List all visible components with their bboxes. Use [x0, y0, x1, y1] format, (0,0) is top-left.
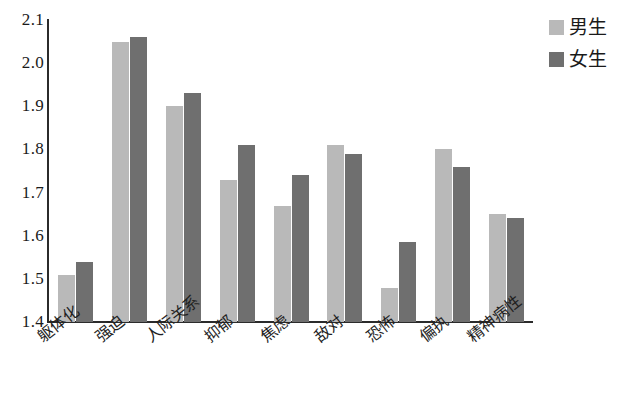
- bar-chart: 2.12.01.91.81.71.61.51.4 躯体化强迫人际关系抑郁焦虑敌对…: [0, 0, 638, 408]
- legend-swatch-icon: [549, 52, 564, 67]
- bar-female: [184, 93, 201, 322]
- bar-female: [345, 154, 362, 322]
- bar-female: [130, 37, 147, 322]
- bar-male: [112, 42, 129, 322]
- bar-female: [453, 167, 470, 322]
- bar-female: [399, 242, 416, 322]
- chart-legend: 男生女生: [549, 14, 635, 78]
- bar-male: [220, 180, 237, 322]
- bar-group: [220, 20, 255, 322]
- x-axis-category-labels: 躯体化强迫人际关系抑郁焦虑敌对恐怖偏执精神病性: [0, 322, 638, 408]
- bar-male: [435, 149, 452, 322]
- y-axis-tick-label: 1.7: [4, 184, 44, 201]
- legend-label: 男生: [569, 18, 607, 37]
- y-axis-tick-label: 1.8: [4, 140, 44, 157]
- bar-group: [166, 20, 201, 322]
- bar-group: [58, 20, 93, 322]
- bar-male: [166, 106, 183, 322]
- y-axis-tick-label: 1.5: [4, 270, 44, 287]
- legend-item-male: 男生: [549, 14, 635, 40]
- bar-group: [112, 20, 147, 322]
- y-axis-tick-label: 2.1: [4, 11, 44, 28]
- bar-group: [381, 20, 416, 322]
- bar-male: [274, 206, 291, 322]
- plot-area: [48, 20, 532, 322]
- bar-female: [238, 145, 255, 322]
- y-axis-tick-label: 1.6: [4, 227, 44, 244]
- legend-swatch-icon: [549, 20, 564, 35]
- bar-group: [489, 20, 524, 322]
- legend-item-female: 女生: [549, 46, 635, 72]
- legend-label: 女生: [569, 50, 607, 69]
- y-axis-tick-label: 1.9: [4, 97, 44, 114]
- bar-group: [435, 20, 470, 322]
- bar-group: [274, 20, 309, 322]
- chart-screenshot: 2.12.01.91.81.71.61.51.4 躯体化强迫人际关系抑郁焦虑敌对…: [0, 0, 638, 408]
- bar-female: [292, 175, 309, 322]
- y-axis-tick-label: 2.0: [4, 54, 44, 71]
- bar-group: [327, 20, 362, 322]
- bar-male: [327, 145, 344, 322]
